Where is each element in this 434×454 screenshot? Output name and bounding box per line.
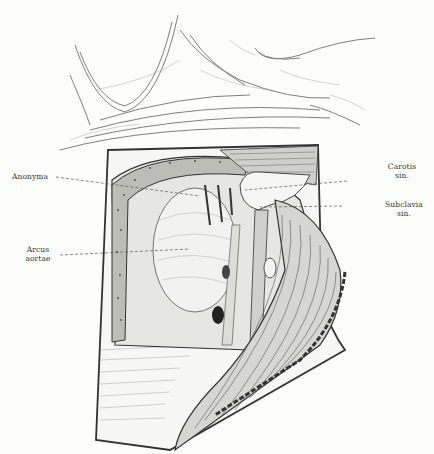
label-arcus-aortae: Arcus aortae [18, 245, 58, 263]
label-arcus-line1: Arcus [18, 245, 58, 254]
illustration [0, 0, 434, 454]
skin-folds [60, 15, 375, 150]
anatomical-figure: Anonyma Arcus aortae Carotis sin. Subcla… [0, 0, 434, 454]
label-subclavia-sin: Subclavia sin. [380, 200, 428, 218]
label-carotis-line1: Carotis [380, 162, 424, 171]
label-subclavia-line2: sin. [380, 209, 428, 218]
label-anonyma: Anonyma [12, 172, 48, 181]
label-subclavia-line1: Subclavia [380, 200, 428, 209]
label-carotis-sin: Carotis sin. [380, 162, 424, 180]
label-arcus-line2: aortae [18, 254, 58, 263]
label-carotis-line2: sin. [380, 171, 424, 180]
